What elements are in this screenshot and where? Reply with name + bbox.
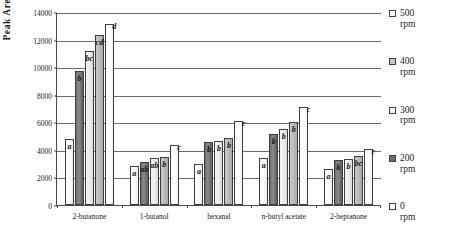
- x-axis-tick: [122, 205, 123, 208]
- bar-annotation: b: [207, 146, 211, 154]
- bar[interactable]: d: [105, 24, 114, 205]
- legend-label: 300rpm: [400, 105, 415, 127]
- bar-annotation: bc: [355, 160, 363, 168]
- bar[interactable]: a: [130, 166, 139, 205]
- y-axis-tick-label: 6000: [37, 119, 52, 128]
- bar[interactable]: ab: [140, 162, 149, 205]
- bar[interactable]: b: [334, 160, 343, 205]
- bar[interactable]: b: [224, 138, 233, 205]
- legend-item[interactable]: 500rpm: [389, 8, 447, 30]
- legend-label: 0rpm: [400, 201, 415, 223]
- bar-annotation: a: [197, 168, 201, 176]
- bar-group: aababbc1-butanol: [122, 13, 187, 205]
- bar-annotation: d: [112, 23, 116, 31]
- bar[interactable]: ab: [150, 158, 159, 205]
- plot-area: 02000400060008000100001200014000 abbccdd…: [56, 13, 381, 206]
- legend-label: 500rpm: [400, 8, 415, 30]
- legend-item[interactable]: 200rpm: [389, 153, 447, 175]
- bar[interactable]: cd: [95, 35, 104, 205]
- bar[interactable]: c: [364, 149, 373, 205]
- bar-annotation: a: [262, 162, 266, 170]
- bar-annotation: b: [337, 164, 341, 172]
- bar-group: abbbcn-butyl acetate: [251, 13, 316, 205]
- bar-annotation: b: [77, 75, 81, 83]
- bar[interactable]: b: [75, 71, 84, 205]
- bar[interactable]: b: [269, 134, 278, 205]
- x-axis-tick-label: hexanal: [207, 212, 230, 221]
- bar-annotation: c: [307, 106, 311, 114]
- bar-annotation: b: [162, 161, 166, 169]
- legend-swatch-icon: [389, 107, 396, 114]
- bar[interactable]: c: [234, 121, 243, 205]
- x-axis-tick-label: n-butyl acetate: [262, 212, 306, 221]
- bar-annotation: c: [372, 148, 376, 156]
- legend-item[interactable]: 300rpm: [389, 105, 447, 127]
- bar-annotation: c: [242, 120, 246, 128]
- bar[interactable]: b: [204, 142, 213, 205]
- chart-figure: Peak Area 020004000600080001000012000140…: [0, 0, 449, 247]
- bar-annotation: bc: [86, 55, 94, 63]
- legend-label: 200rpm: [400, 153, 415, 175]
- bar[interactable]: a: [324, 169, 333, 205]
- bar[interactable]: b: [289, 122, 298, 205]
- bar-annotation: b: [347, 163, 351, 171]
- bar-group: abbccdd2-butanone: [57, 13, 122, 205]
- bar-annotation: a: [132, 170, 136, 178]
- y-axis-tick-label: 4000: [37, 146, 52, 155]
- y-axis-title: Peak Area: [2, 0, 16, 62]
- x-axis-tick: [316, 205, 317, 208]
- bar[interactable]: b: [160, 157, 169, 205]
- bar-group: abbbcc2-heptanone: [316, 13, 381, 205]
- legend-item[interactable]: 0rpm: [389, 201, 447, 223]
- bar-annotation: b: [227, 142, 231, 150]
- legend-swatch-icon: [389, 203, 396, 210]
- y-axis-tick-label: 0: [48, 202, 52, 211]
- y-axis-title-container: Peak Area: [0, 0, 22, 210]
- bar-annotation: ab: [150, 162, 158, 170]
- x-axis-tick: [57, 205, 58, 208]
- bar-group: abbbchexanal: [187, 13, 252, 205]
- x-axis-tick-label: 1-butanol: [140, 212, 169, 221]
- y-axis-tick-label: 10000: [33, 64, 52, 73]
- legend: 500rpm400rpm300rpm200rpm0rpm: [389, 8, 447, 223]
- y-axis-tick-label: 8000: [37, 91, 52, 100]
- bar-annotation: a: [327, 173, 331, 181]
- y-axis-tick-label: 2000: [37, 174, 52, 183]
- x-axis-tick: [380, 205, 381, 208]
- legend-swatch-icon: [389, 58, 396, 65]
- x-axis-tick-label: 2-butanone: [73, 212, 107, 221]
- bar-annotation: b: [292, 126, 296, 134]
- legend-item[interactable]: 400rpm: [389, 56, 447, 78]
- x-axis-tick: [251, 205, 252, 208]
- legend-swatch-icon: [389, 155, 396, 162]
- bar[interactable]: c: [299, 107, 308, 205]
- bar[interactable]: b: [344, 159, 353, 205]
- bar[interactable]: a: [65, 139, 74, 205]
- bar[interactable]: b: [214, 141, 223, 205]
- bar-annotation: b: [217, 145, 221, 153]
- legend-swatch-icon: [389, 10, 396, 17]
- bar-groups: abbccdd2-butanoneaababbc1-butanolabbbche…: [57, 13, 381, 205]
- bar[interactable]: bc: [85, 51, 94, 205]
- bar[interactable]: c: [170, 145, 179, 205]
- bar[interactable]: b: [279, 129, 288, 205]
- x-axis-tick-label: 2-heptanone: [330, 212, 367, 221]
- x-axis-tick: [187, 205, 188, 208]
- bar[interactable]: a: [194, 164, 203, 205]
- bar-annotation: b: [282, 133, 286, 141]
- bar-annotation: a: [67, 143, 71, 151]
- bar-annotation: c: [177, 144, 181, 152]
- legend-label: 400rpm: [400, 56, 415, 78]
- bar[interactable]: bc: [354, 156, 363, 205]
- bar-annotation: b: [272, 138, 276, 146]
- bar[interactable]: a: [259, 158, 268, 205]
- y-axis-tick-label: 12000: [33, 36, 52, 45]
- y-axis-tick-label: 14000: [33, 9, 52, 18]
- bar-annotation: ab: [140, 166, 148, 174]
- bar-annotation: cd: [96, 39, 104, 47]
